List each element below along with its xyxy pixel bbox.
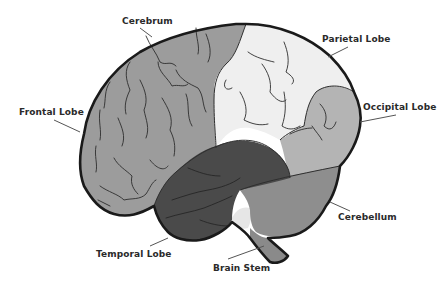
leader-line-occipital bbox=[360, 115, 396, 122]
leader-line-cerebellum bbox=[330, 202, 350, 211]
leader-line-brain-stem bbox=[228, 246, 264, 259]
label-occipital-lobe: Occipital Lobe bbox=[363, 102, 436, 112]
label-cerebellum: Cerebellum bbox=[338, 212, 397, 222]
label-cerebrum: Cerebrum bbox=[122, 16, 173, 26]
label-frontal-lobe: Frontal Lobe bbox=[19, 107, 84, 117]
brain-diagram: Cerebrum Parietal Lobe Frontal Lobe Occi… bbox=[0, 0, 440, 283]
leader-line-frontal bbox=[54, 120, 80, 132]
label-temporal-lobe: Temporal Lobe bbox=[96, 249, 172, 259]
label-brain-stem: Brain Stem bbox=[213, 263, 270, 273]
leader-line-temporal bbox=[150, 238, 168, 246]
label-parietal-lobe: Parietal Lobe bbox=[322, 34, 390, 44]
leader-line-parietal bbox=[328, 47, 348, 57]
